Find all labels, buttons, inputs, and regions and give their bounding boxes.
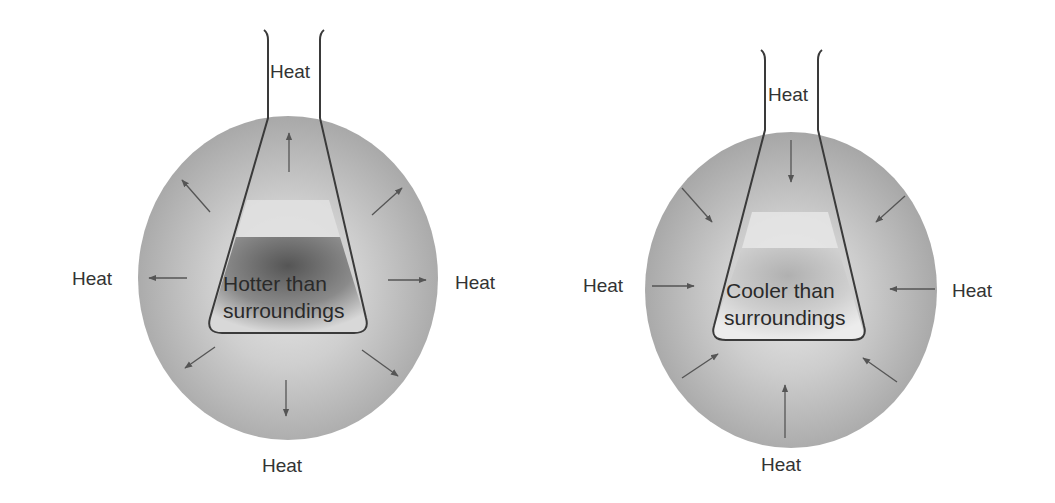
panel-endothermic: Cooler than surroundings Heat Heat Heat … <box>583 50 993 475</box>
flask-headspace <box>236 200 340 237</box>
heat-label-left: Heat <box>583 275 624 296</box>
flask-label-line2: surroundings <box>724 306 845 329</box>
flask-label-line2: surroundings <box>223 299 344 322</box>
heat-label-bottom: Heat <box>761 454 802 475</box>
heat-label-right: Heat <box>952 280 993 301</box>
heat-label-right: Heat <box>455 272 496 293</box>
flask-label-line1: Hotter than <box>223 272 327 295</box>
heat-flow-diagram: Hotter than surroundings Heat Heat Heat … <box>0 0 1055 503</box>
panel-exothermic: Hotter than surroundings Heat Heat Heat … <box>72 30 496 476</box>
heat-label-left: Heat <box>72 268 113 289</box>
heat-label-bottom: Heat <box>262 455 303 476</box>
flask-headspace <box>742 212 838 248</box>
heat-label-top: Heat <box>270 61 311 82</box>
flask-label-line1: Cooler than <box>726 279 835 302</box>
heat-label-top: Heat <box>768 84 809 105</box>
